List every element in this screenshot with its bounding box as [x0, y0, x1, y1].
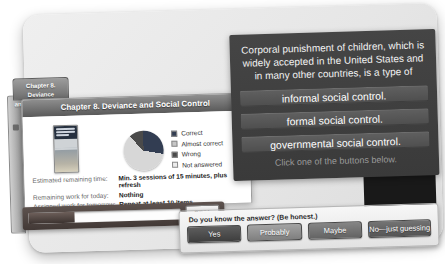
- book-cover-thumbnail: [53, 125, 79, 174]
- question-panel: Corporal punishment of children, which i…: [229, 29, 439, 181]
- chapter-tab[interactable]: Chapter 8. Deviance and Social Control: [12, 77, 69, 101]
- legend-swatch-wrong-icon: [172, 151, 178, 157]
- legend-item-not-answered: Not answered: [172, 160, 224, 169]
- confidence-bar: Do you know the answer? (Be honest.) Yes…: [178, 203, 439, 254]
- question-hint: Click one of the buttons below.: [242, 153, 430, 169]
- option-governmental-social-control[interactable]: governmental social control.: [241, 131, 429, 153]
- confidence-buttons: Yes Probably Maybe No—just guessing: [187, 219, 431, 243]
- study-window: Chapter 8. Deviance and Social Control C…: [21, 93, 252, 210]
- study-window-body: Correct Almost correct Wrong Not answere…: [23, 111, 252, 210]
- window-edge-icon: [13, 124, 19, 130]
- legend-item-wrong: Wrong: [172, 149, 224, 158]
- results-pie-chart: [123, 130, 164, 171]
- yes-button[interactable]: Yes: [187, 225, 242, 244]
- progress-track: [28, 209, 180, 225]
- question-text: Corporal punishment of children, which i…: [239, 38, 428, 83]
- legend-swatch-correct-icon: [171, 130, 177, 136]
- page: Chapter 8. Deviance and Social Control C…: [0, 0, 445, 264]
- legend-swatch-not-answered-icon: [172, 162, 178, 168]
- progress-fill: [28, 212, 74, 224]
- book-cover-photo: [55, 148, 79, 174]
- pie-legend: Correct Almost correct Wrong Not answere…: [171, 128, 224, 172]
- legend-item-almost-correct: Almost correct: [171, 139, 223, 148]
- option-formal-social-control[interactable]: formal social control.: [241, 108, 429, 130]
- flyer-card: Chapter 8. Deviance and Social Control C…: [23, 3, 444, 253]
- probably-button[interactable]: Probably: [247, 223, 302, 242]
- legend-item-correct: Correct: [171, 128, 223, 137]
- maybe-button[interactable]: Maybe: [308, 221, 363, 240]
- option-informal-social-control[interactable]: informal social control.: [240, 85, 428, 107]
- no-just-guessing-button[interactable]: No—just guessing: [368, 219, 431, 238]
- legend-swatch-almost-correct-icon: [171, 141, 177, 147]
- book-cover-title-band: [54, 126, 77, 140]
